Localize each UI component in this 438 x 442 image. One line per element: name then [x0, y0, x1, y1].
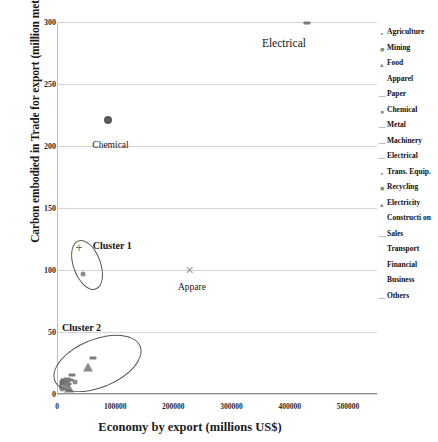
legend-marker-icon: — — [378, 292, 386, 303]
x-tick-label: 200000 — [162, 402, 185, 411]
legend-marker-icon — [378, 75, 386, 86]
y-tick-label: 300 — [22, 18, 56, 27]
legend-marker-icon: — — [378, 121, 386, 132]
legend-item[interactable]: ▴Food — [378, 59, 438, 72]
legend-item[interactable]: ■Recycling — [378, 183, 438, 196]
legend-item[interactable]: ▴Electricity — [378, 199, 438, 212]
legend-item-label: Food — [386, 59, 403, 68]
legend-item[interactable]: —Others — [378, 292, 438, 305]
legend-item-label: Machinery — [386, 137, 422, 146]
legend-marker-icon: ▪ — [378, 168, 386, 179]
annotation-label: Electrical — [262, 37, 306, 49]
legend-item-label: Chemical — [386, 106, 417, 115]
legend-item-label: Business — [386, 276, 415, 285]
legend-item[interactable]: Transport — [378, 245, 438, 258]
legend-item-label: Paper — [386, 90, 406, 99]
legend-item-label: Electricity — [386, 199, 420, 208]
gridline — [57, 208, 377, 209]
y-tick-label: 50 — [22, 328, 56, 337]
data-point: ✕ — [185, 265, 194, 276]
legend-item[interactable]: —Paper — [378, 90, 438, 103]
scatter-chart: Carbon embodied in Trade for export (mil… — [0, 0, 438, 442]
legend-item-label: Electrical — [386, 152, 418, 161]
legend-item-label: Agriculture — [386, 28, 424, 37]
legend-item[interactable]: Financial — [378, 261, 438, 274]
legend-item-label: Constructi on — [386, 214, 431, 223]
y-tick-label: 250 — [22, 80, 56, 89]
gridline — [57, 270, 377, 271]
legend-item-label: Apparel — [386, 75, 413, 84]
x-tick-label: 400000 — [278, 402, 301, 411]
data-point — [304, 22, 311, 25]
y-tick-label: 200 — [22, 142, 56, 151]
gridline — [57, 394, 377, 395]
y-axis-tick-labels: 050100150200250300 — [22, 0, 56, 442]
legend-marker-icon: ● — [378, 106, 386, 117]
plot-area: ✕+ ElectricalChemicalCluster 1AppareClus… — [57, 22, 377, 394]
x-axis-title: Economy by export (millions US$) — [40, 420, 340, 435]
legend-item-label: Recycling — [386, 183, 418, 192]
legend-item[interactable]: —Machinery — [378, 137, 438, 150]
y-tick-label: 150 — [22, 204, 56, 213]
annotation-label: Cluster 1 — [93, 240, 132, 251]
legend-item[interactable]: —Sales — [378, 230, 438, 243]
legend-marker-icon: ▪ — [378, 28, 386, 39]
legend-marker-icon: — — [378, 90, 386, 101]
legend-marker-icon: ▴ — [378, 199, 386, 210]
legend-item[interactable]: ■Mining — [378, 44, 438, 57]
legend-marker-icon: — — [378, 137, 386, 148]
x-tick-label: 100000 — [104, 402, 127, 411]
x-tick-label: 300000 — [220, 402, 243, 411]
x-axis-tick-labels: 0100000200000300000400000500000 — [0, 402, 438, 416]
legend-item-label: Mining — [386, 44, 410, 53]
legend-item-label: Financial — [386, 261, 417, 270]
legend-item[interactable]: ●Chemical — [378, 106, 438, 119]
legend-item[interactable]: Apparel — [378, 75, 438, 88]
data-point — [104, 116, 112, 124]
legend-item[interactable]: —Electrical — [378, 152, 438, 165]
annotation-label: Appare — [178, 282, 206, 292]
legend-marker-icon: ▴ — [378, 59, 386, 70]
legend-marker-icon: ■ — [378, 183, 386, 194]
legend-item-label: Metal — [386, 121, 406, 130]
legend-item[interactable]: ▪Trans. Equip. — [378, 168, 438, 181]
legend-marker-icon — [378, 261, 386, 272]
legend-item-label: Transport — [386, 245, 419, 254]
legend-marker-icon: — — [378, 152, 386, 163]
legend-marker-icon — [378, 214, 386, 225]
annotation-label: Cluster 2 — [62, 322, 101, 333]
legend-marker-icon: — — [378, 230, 386, 241]
x-tick-label: 500000 — [337, 402, 360, 411]
gridline — [57, 22, 377, 23]
legend-item[interactable]: —Metal — [378, 121, 438, 134]
y-tick-label: 100 — [22, 266, 56, 275]
legend-marker-icon — [378, 245, 386, 256]
gridline — [57, 84, 377, 85]
legend-item-label: Others — [386, 292, 409, 301]
annotation-label: Chemical — [92, 140, 128, 150]
legend-item-label: Trans. Equip. — [386, 168, 431, 177]
legend-item[interactable]: Constructi on — [378, 214, 438, 227]
legend-marker-icon — [378, 276, 386, 287]
legend-item-label: Sales — [386, 230, 403, 239]
chart-legend: ▪Agriculture■Mining▴FoodApparel—Paper●Ch… — [378, 28, 438, 307]
legend-item[interactable]: ▪Agriculture — [378, 28, 438, 41]
x-tick-label: 0 — [55, 402, 59, 411]
y-tick-label: 0 — [22, 390, 56, 399]
legend-item[interactable]: Business — [378, 276, 438, 289]
legend-marker-icon: ■ — [378, 44, 386, 55]
gridline — [57, 332, 377, 333]
